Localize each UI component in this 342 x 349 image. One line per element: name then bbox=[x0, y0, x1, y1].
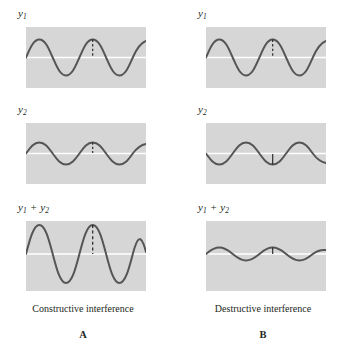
wave-label-y1-plus-y2: y1 + y2 bbox=[198, 202, 229, 213]
wave-label-y1: y1 bbox=[198, 8, 207, 19]
wave-panel bbox=[26, 123, 146, 184]
interference-figure: y1 y2 bbox=[0, 0, 342, 349]
wave-label-y1: y1 bbox=[18, 8, 27, 19]
wave-panel bbox=[26, 221, 146, 291]
wave-panel bbox=[206, 221, 326, 291]
column-b: y1 y2 bbox=[188, 0, 338, 349]
wave-plot-a-sum bbox=[26, 221, 146, 291]
wave-plot-a-y2 bbox=[26, 123, 146, 184]
wave-panel bbox=[26, 27, 146, 88]
column-a: y1 y2 bbox=[8, 0, 158, 349]
wave-plot-a-y1 bbox=[26, 27, 146, 88]
column-letter-b: B bbox=[188, 330, 338, 341]
wave-plot-b-y1 bbox=[206, 27, 326, 88]
wave-label-y2: y2 bbox=[198, 104, 207, 115]
wave-label-y2: y2 bbox=[18, 104, 27, 115]
column-letter-a: A bbox=[8, 330, 158, 341]
caption-destructive: Destructive interference bbox=[188, 304, 338, 314]
wave-plot-b-sum bbox=[206, 221, 326, 291]
wave-panel bbox=[206, 123, 326, 184]
wave-label-y1-plus-y2: y1 + y2 bbox=[18, 202, 49, 213]
wave-plot-b-y2 bbox=[206, 123, 326, 184]
wave-panel bbox=[206, 27, 326, 88]
caption-constructive: Constructive interference bbox=[8, 304, 158, 314]
